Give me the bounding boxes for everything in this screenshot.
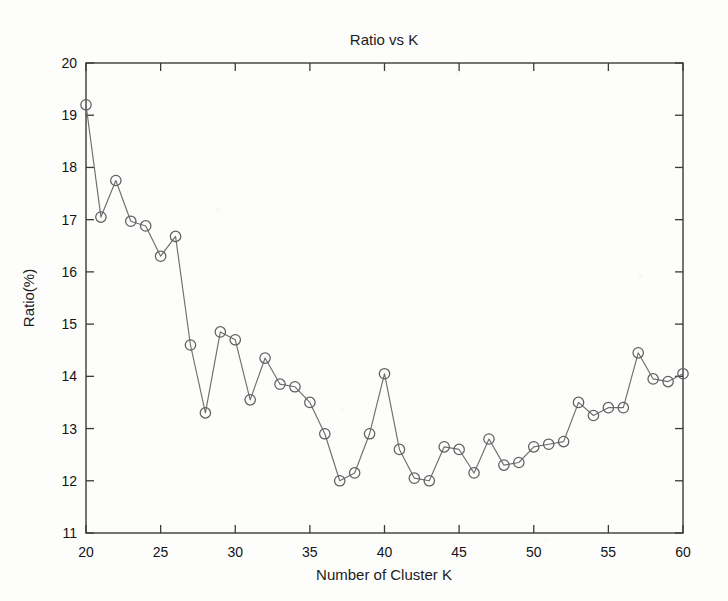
x-tick-label: 30 xyxy=(227,544,243,560)
x-axis-ticks: 202530354045505560 xyxy=(78,63,691,560)
ratio-series-line xyxy=(86,105,683,481)
y-tick-label: 12 xyxy=(61,473,77,489)
y-tick-label: 11 xyxy=(62,525,77,541)
y-axis-ticks: 11121314151617181920 xyxy=(61,55,683,541)
ratio-series-markers xyxy=(81,100,688,486)
x-tick-label: 20 xyxy=(78,544,94,560)
x-axis-label: Number of Cluster K xyxy=(316,566,452,583)
y-tick-label: 17 xyxy=(61,212,77,228)
chart-title: Ratio vs K xyxy=(350,31,418,48)
y-tick-label: 18 xyxy=(61,159,77,175)
y-tick-label: 13 xyxy=(61,421,77,437)
x-tick-label: 50 xyxy=(526,544,542,560)
plot-frame xyxy=(86,63,683,533)
y-tick-label: 16 xyxy=(61,264,77,280)
chart-page: Ratio vs K Ratio(%) Number of Cluster K … xyxy=(0,0,728,601)
y-tick-label: 19 xyxy=(61,107,77,123)
y-axis-title-group: Ratio(%) xyxy=(20,269,37,327)
y-tick-label: 15 xyxy=(61,316,77,332)
y-tick-label: 14 xyxy=(61,368,77,384)
x-tick-label: 55 xyxy=(601,544,617,560)
x-tick-label: 35 xyxy=(302,544,318,560)
x-tick-label: 45 xyxy=(451,544,467,560)
y-tick-label: 20 xyxy=(61,55,77,71)
y-axis-label: Ratio(%) xyxy=(20,269,37,327)
x-tick-label: 25 xyxy=(153,544,169,560)
ratio-vs-k-chart: Ratio vs K Ratio(%) Number of Cluster K … xyxy=(0,0,728,601)
x-tick-label: 40 xyxy=(377,544,393,560)
x-tick-label: 60 xyxy=(675,544,691,560)
